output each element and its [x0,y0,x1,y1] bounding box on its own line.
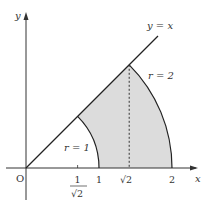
tick-label-sqrt2: √2 [120,174,132,185]
y-axis-label: y [14,10,21,21]
tick-label-inv-sqrt2-denominator: √2 [71,188,83,199]
polar-region-diagram: y x O y = x r = 2 r = 1 1 √2 1 √2 2 [0,0,208,204]
x-axis-label: x [195,173,201,184]
tick-label-inv-sqrt2-numerator: 1 [75,174,81,185]
y-axis-arrow-icon [24,12,29,20]
tick-label-2: 2 [169,174,175,185]
inner-arc-label: r = 1 [64,142,90,153]
x-axis-arrow-icon [190,166,198,171]
tick-label-1: 1 [96,174,102,185]
origin-label: O [16,173,24,184]
outer-arc-label: r = 2 [148,70,174,81]
line-y-equals-x-label: y = x [146,20,173,31]
